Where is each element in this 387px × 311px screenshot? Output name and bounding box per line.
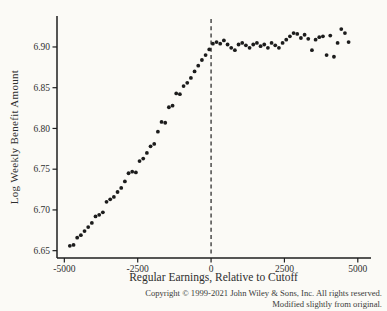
data-point xyxy=(174,92,178,96)
data-point xyxy=(156,130,160,134)
x-axis-label: Regular Earnings, Relative to Cutoff xyxy=(40,271,387,283)
data-point xyxy=(112,195,116,199)
data-point xyxy=(127,171,131,175)
data-point xyxy=(292,31,296,35)
data-point xyxy=(343,31,347,35)
data-point xyxy=(314,38,318,42)
data-point xyxy=(178,92,182,96)
data-point xyxy=(215,40,219,44)
data-point xyxy=(240,41,244,45)
data-point xyxy=(90,221,94,225)
y-axis-label: Log Weekly Benefit Amount xyxy=(8,37,24,237)
data-point xyxy=(303,33,307,37)
y-tick-label: 6.65 xyxy=(33,246,50,256)
data-point xyxy=(321,34,325,38)
data-point xyxy=(130,170,134,174)
data-point xyxy=(105,200,109,204)
data-point xyxy=(138,159,142,163)
copyright-line-2: Modified slightly from original. xyxy=(145,299,382,310)
data-point xyxy=(237,43,241,47)
y-tick-label: 6.75 xyxy=(33,164,50,174)
data-point xyxy=(295,32,299,36)
data-point xyxy=(193,70,197,74)
data-point xyxy=(233,48,237,52)
data-point xyxy=(266,46,270,50)
data-point xyxy=(347,40,351,44)
y-tick-label: 6.80 xyxy=(33,124,50,134)
data-point xyxy=(149,144,153,148)
data-point xyxy=(167,105,171,109)
data-point xyxy=(200,58,204,62)
data-point xyxy=(248,46,252,50)
data-point xyxy=(288,34,292,38)
data-point xyxy=(116,190,120,194)
data-point xyxy=(328,34,332,38)
data-point xyxy=(336,41,340,45)
data-point xyxy=(310,48,314,52)
data-point xyxy=(259,44,263,48)
data-point xyxy=(299,36,303,40)
scatter-plot: 6.656.706.756.806.856.90-5000-2500025005… xyxy=(0,0,387,280)
data-point xyxy=(75,236,79,240)
data-point xyxy=(185,81,189,85)
data-point xyxy=(332,55,336,59)
data-point xyxy=(119,186,123,190)
data-point xyxy=(141,157,145,161)
data-point xyxy=(270,41,274,45)
data-point xyxy=(189,76,193,80)
data-point xyxy=(86,225,90,229)
data-point xyxy=(255,41,259,45)
data-point xyxy=(79,233,83,237)
data-point xyxy=(218,42,222,46)
data-point xyxy=(262,43,266,47)
copyright-line-1: Copyright © 1999-2021 John Wiley & Sons,… xyxy=(145,288,382,299)
data-point xyxy=(196,64,200,68)
data-point xyxy=(226,43,230,47)
data-point xyxy=(339,27,343,31)
data-point xyxy=(94,215,98,219)
data-point xyxy=(145,151,149,155)
data-point xyxy=(204,53,208,57)
data-point xyxy=(273,43,277,47)
data-point xyxy=(325,53,329,57)
data-point xyxy=(244,43,248,47)
data-point xyxy=(134,171,138,175)
data-point xyxy=(229,46,233,50)
data-point xyxy=(284,38,288,42)
data-point xyxy=(211,42,215,46)
data-point xyxy=(171,104,175,108)
y-tick-label: 6.70 xyxy=(33,205,50,215)
copyright-notice: Copyright © 1999-2021 John Wiley & Sons,… xyxy=(145,288,382,309)
figure-page: 6.656.706.756.806.856.90-5000-2500025005… xyxy=(0,0,387,311)
data-point xyxy=(277,46,281,50)
data-point xyxy=(207,48,211,52)
data-point xyxy=(251,43,255,47)
data-point xyxy=(306,37,310,41)
data-point xyxy=(182,84,186,88)
data-point xyxy=(222,39,226,43)
data-point xyxy=(123,180,127,184)
data-point xyxy=(317,35,321,39)
data-point xyxy=(101,210,105,214)
y-tick-label: 6.85 xyxy=(33,83,50,93)
data-point xyxy=(160,120,164,124)
data-point xyxy=(281,41,285,45)
data-point xyxy=(108,197,112,201)
data-point xyxy=(68,244,72,248)
y-tick-label: 6.90 xyxy=(33,42,50,52)
data-point xyxy=(152,142,156,146)
data-point xyxy=(163,121,167,125)
data-point xyxy=(72,243,76,247)
data-point xyxy=(97,213,101,217)
data-point xyxy=(83,229,87,233)
